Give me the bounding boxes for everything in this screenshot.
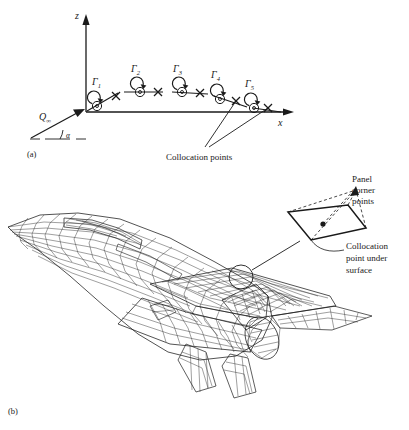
vortex-label-3: Γ3 — [172, 63, 183, 76]
vortex-element-3 — [172, 77, 188, 97]
panel-a-group: z x Γ1 — [27, 10, 294, 162]
detail-leader-line — [252, 241, 300, 270]
collocation-points-annotation: Collocation points — [166, 152, 233, 162]
vortex-label-4: Γ4 — [210, 69, 221, 82]
panel-a-tag: (a) — [27, 149, 37, 159]
vortex-label-2: Γ2 — [130, 63, 141, 76]
collocation-callout-leader — [311, 240, 344, 251]
panel-corner-points-label-line2: corner — [352, 185, 375, 195]
figure-canvas: z x Γ1 — [0, 0, 409, 430]
vortex-label-5: Γ5 — [244, 78, 255, 91]
alpha-arc — [60, 130, 63, 139]
vortex-label-1: Γ1 — [91, 76, 101, 89]
collocation-under-surface-line2: point under — [346, 253, 387, 263]
z-axis-label: z — [74, 10, 79, 21]
collocation-under-surface-line3: surface — [346, 265, 372, 275]
vortex-element-5 — [244, 93, 260, 113]
vortex-element-1 — [87, 91, 103, 111]
x-axis-label: x — [277, 117, 283, 128]
panel-corner-points-label-line3: points — [352, 196, 375, 206]
aircraft-wireframe — [8, 213, 372, 398]
alpha-label: α — [66, 131, 71, 140]
z-axis — [82, 14, 89, 112]
figure-root: z x Γ1 — [0, 0, 409, 430]
freestream-label: Q∞ — [39, 111, 51, 124]
vortex-element-4 — [210, 84, 226, 104]
vortex-element-2 — [130, 77, 146, 97]
panel-b-tag: (b) — [8, 406, 18, 416]
collocation-under-surface-line1: Collocation — [346, 241, 388, 251]
panel-corner-points-label-line1: Panel — [352, 174, 372, 184]
panel-b-group: Panel corner points Collocation point un… — [8, 174, 388, 416]
camber-line — [87, 92, 281, 112]
